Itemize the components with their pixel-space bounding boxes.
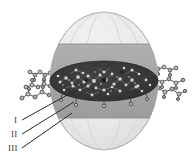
sphere-diagram: I II III xyxy=(0,0,192,165)
label-I: I xyxy=(14,115,17,125)
figure-container: I II III xyxy=(0,0,192,165)
ligand-chains-left xyxy=(20,70,52,100)
label-II: II xyxy=(11,129,17,139)
label-III: III xyxy=(8,143,18,153)
